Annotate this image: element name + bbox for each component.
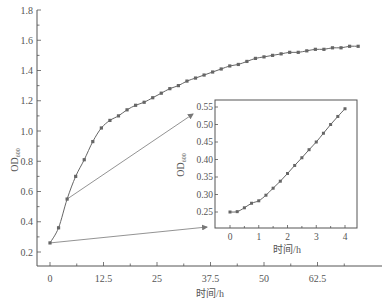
main-data-point <box>202 73 205 76</box>
main-y-tick-label: 1.4 <box>21 65 34 76</box>
inset-y-tick-label: 0.35 <box>196 172 213 182</box>
main-data-point <box>331 46 334 49</box>
inset-y-label-text: OD <box>175 162 186 176</box>
inset-x-tick-label: 4 <box>343 232 348 242</box>
inset-data-point <box>272 187 275 190</box>
main-data-point <box>262 55 265 58</box>
inset-y-axis-label: OD600 <box>175 153 187 176</box>
main-y-tick-label: 0.4 <box>21 216 34 227</box>
main-x-tick-label: 62.5 <box>309 273 327 284</box>
inset-data-point <box>243 206 246 209</box>
main-y-ticks: 0.20.40.60.81.01.21.41.61.8 <box>21 5 42 258</box>
main-y-tick-label: 1.0 <box>21 126 34 137</box>
main-y-axis-label: OD600 <box>9 148 21 171</box>
main-data-point <box>211 70 214 73</box>
main-y-label-text: OD <box>9 157 20 171</box>
main-data-point <box>83 158 86 161</box>
inset-data-point <box>279 180 282 183</box>
inset-data-point <box>344 107 347 110</box>
main-x-tick-label: 50 <box>259 273 269 284</box>
inset-data-point <box>336 115 339 118</box>
main-x-tick-label: 0 <box>48 273 53 284</box>
main-data-point <box>245 60 248 63</box>
growth-curve-chart: 0.20.40.60.81.01.21.41.61.8 012.52537.55… <box>0 0 387 303</box>
inset-data-point <box>300 156 303 159</box>
main-y-tick-label: 0.2 <box>21 247 34 258</box>
inset-data-point <box>315 141 318 144</box>
main-data-point <box>357 45 360 48</box>
inset-data-point <box>286 172 289 175</box>
main-y-tick-label: 0.8 <box>21 156 34 167</box>
inset-data-point <box>264 194 267 197</box>
inset-y-label-subscript: 600 <box>181 153 187 162</box>
main-data-point <box>91 140 94 143</box>
inset-data-point <box>293 164 296 167</box>
main-data-point <box>185 79 188 82</box>
main-data-point <box>271 54 274 57</box>
inset-data-point <box>329 123 332 126</box>
inset-x-axis-label: 时间/h <box>273 243 301 255</box>
main-data-point <box>322 48 325 51</box>
main-data-point <box>348 45 351 48</box>
inset-x-tick-label: 2 <box>285 232 290 242</box>
main-y-tick-label: 1.6 <box>21 35 34 46</box>
main-data-point <box>100 126 103 129</box>
inset-x-tick-label: 3 <box>314 232 319 242</box>
main-y-tick-label: 1.2 <box>21 95 34 106</box>
main-data-point <box>57 226 60 229</box>
main-data-point <box>74 175 77 178</box>
main-data-point <box>108 119 111 122</box>
inset-data-point <box>250 202 253 205</box>
main-data-point <box>117 114 120 117</box>
main-data-point <box>125 108 128 111</box>
inset-y-tick-label: 0.55 <box>196 102 213 112</box>
inset-data-point <box>229 211 232 214</box>
inset-data-point <box>322 132 325 135</box>
main-data-point <box>168 87 171 90</box>
inset-y-tick-label: 0.25 <box>196 207 213 217</box>
main-data-point <box>177 84 180 87</box>
main-data-point <box>228 64 231 67</box>
inset-data-point <box>308 148 311 151</box>
main-data-point <box>134 104 137 107</box>
main-data-point <box>237 63 240 66</box>
main-data-point <box>160 92 163 95</box>
inset-data-point <box>257 199 260 202</box>
main-data-point <box>305 49 308 52</box>
main-data-point <box>288 51 291 54</box>
main-y-label-subscript: 600 <box>15 148 21 157</box>
main-x-tick-label: 25 <box>152 273 162 284</box>
inset-y-tick-label: 0.50 <box>196 120 213 130</box>
main-data-point <box>48 241 51 244</box>
main-x-axis-label: 时间/h <box>196 287 224 299</box>
main-data-point <box>66 197 69 200</box>
main-data-point <box>194 76 197 79</box>
main-data-point <box>143 101 146 104</box>
inset-y-tick-label: 0.45 <box>196 137 213 147</box>
main-data-point <box>254 57 257 60</box>
inset-plot: 0.250.300.350.400.450.500.55 01234 OD600… <box>175 100 357 255</box>
main-x-ticks: 012.52537.55062.5 <box>48 262 345 284</box>
main-x-tick-label: 12.5 <box>95 273 113 284</box>
main-x-tick-label: 37.5 <box>202 273 220 284</box>
inset-x-tick-label: 0 <box>228 232 233 242</box>
main-data-point <box>314 48 317 51</box>
main-data-point <box>297 51 300 54</box>
inset-y-tick-label: 0.30 <box>196 190 213 200</box>
zoom-arrow <box>50 227 207 243</box>
main-data-point <box>151 96 154 99</box>
inset-y-tick-label: 0.40 <box>196 155 213 165</box>
main-y-tick-label: 0.6 <box>21 186 34 197</box>
inset-x-tick-label: 1 <box>256 232 261 242</box>
inset-data-point <box>236 210 239 213</box>
main-data-point <box>220 67 223 70</box>
annotation-arrows <box>50 114 207 243</box>
main-data-point <box>339 46 342 49</box>
main-y-tick-label: 1.8 <box>21 5 34 16</box>
main-data-point <box>280 52 283 55</box>
